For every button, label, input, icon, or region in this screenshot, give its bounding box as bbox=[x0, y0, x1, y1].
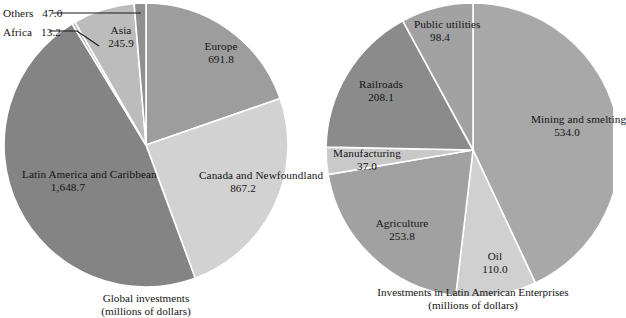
slice-name-public-utilities-line1: Public bbox=[414, 18, 443, 30]
slice-value-others: 47.0 bbox=[42, 7, 62, 19]
caption-global-investments-title: Global investments bbox=[76, 292, 216, 305]
slice-value-africa: 13.2 bbox=[41, 26, 61, 38]
slice-value-europe: 691.8 bbox=[191, 53, 251, 66]
slice-name-agriculture: Agriculture bbox=[376, 217, 429, 229]
slice-name-railroads: Railroads bbox=[359, 78, 403, 90]
slice-name-others: Others bbox=[3, 7, 33, 19]
slice-value-latin-america-caribbean: 1,648.7 bbox=[22, 181, 114, 194]
slice-name-mining-line2: smelting bbox=[587, 113, 626, 125]
slice-label-latin-america-caribbean: Latin America and Caribbean 1,648.7 bbox=[22, 168, 114, 193]
slice-value-canada-newfoundland: 867.2 bbox=[199, 182, 287, 195]
slice-name-mining-line1: Mining and bbox=[531, 113, 584, 125]
slice-name-asia: Asia bbox=[111, 24, 132, 36]
slice-name-public-utilities-line2: utilities bbox=[446, 18, 480, 30]
slice-label-canada-newfoundland: Canada and Newfoundland 867.2 bbox=[199, 169, 287, 194]
slice-label-oil: Oil 110.0 bbox=[473, 250, 517, 275]
slice-value-mining-smelting: 534.0 bbox=[531, 126, 603, 139]
caption-latin-american-subtitle: (millions of dollars) bbox=[343, 299, 603, 312]
slice-name-latin-america-line1: Latin America bbox=[22, 168, 88, 180]
slice-label-manufacturing: Manufacturing 37.0 bbox=[327, 147, 407, 172]
caption-global-investments-subtitle: (millions of dollars) bbox=[76, 305, 216, 318]
slice-label-others: Others 47.0 bbox=[3, 7, 62, 20]
slice-name-latin-america-line2: and Caribbean bbox=[91, 168, 157, 180]
caption-latin-american-enterprises: Investments in Latin American Enterprise… bbox=[343, 286, 603, 312]
slice-value-agriculture: 253.8 bbox=[366, 230, 438, 243]
slice-name-europe: Europe bbox=[205, 40, 238, 52]
slice-label-mining-smelting: Mining and smelting 534.0 bbox=[531, 113, 603, 138]
slice-name-canada-line2: Newfoundland bbox=[255, 169, 323, 181]
slice-value-oil: 110.0 bbox=[473, 263, 517, 276]
slice-label-railroads: Railroads 208.1 bbox=[350, 78, 412, 103]
slice-label-africa: Africa 13.2 bbox=[3, 26, 61, 39]
caption-latin-american-title: Investments in Latin American Enterprise… bbox=[343, 286, 603, 299]
slice-name-canada-line1: Canada and bbox=[199, 169, 253, 181]
slice-label-europe: Europe 691.8 bbox=[191, 40, 251, 65]
slice-label-agriculture: Agriculture 253.8 bbox=[366, 217, 438, 242]
slice-value-manufacturing: 37.0 bbox=[327, 160, 407, 173]
slice-value-public-utilities: 98.4 bbox=[414, 31, 466, 44]
slice-name-oil: Oil bbox=[488, 250, 503, 262]
slice-label-public-utilities: Public utilities 98.4 bbox=[414, 18, 466, 43]
slice-name-africa: Africa bbox=[3, 26, 32, 38]
slice-label-asia: Asia 245.9 bbox=[95, 24, 147, 49]
slice-value-railroads: 208.1 bbox=[350, 91, 412, 104]
caption-global-investments: Global investments (millions of dollars) bbox=[76, 292, 216, 318]
slice-value-asia: 245.9 bbox=[95, 37, 147, 50]
slice-name-manufacturing: Manufacturing bbox=[333, 147, 401, 159]
